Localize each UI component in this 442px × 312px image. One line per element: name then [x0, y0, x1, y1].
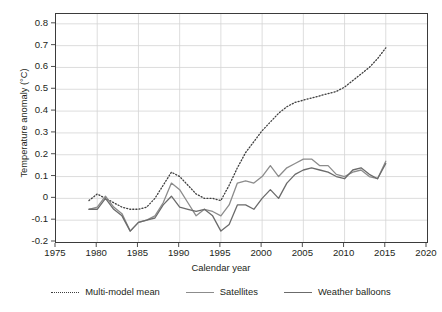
- chart-figure: Temperature anomaly (°C) 0.80.70.60.50.4…: [0, 0, 442, 312]
- legend-swatch-multi_model_mean: [51, 292, 79, 293]
- x-tick-label: 2015: [362, 248, 408, 258]
- legend-label: Weather balloons: [318, 286, 391, 297]
- x-tick-label: 1985: [114, 248, 160, 258]
- x-tick-label: 2010: [321, 248, 367, 258]
- y-tick-label: 0.6: [0, 61, 48, 71]
- legend-label: Multi-model mean: [85, 286, 160, 297]
- x-tick-label: 1990: [156, 248, 202, 258]
- y-tick-label: 0.4: [0, 105, 48, 115]
- x-tick-label: 1975: [32, 248, 78, 258]
- chart-canvas: [56, 14, 427, 242]
- legend-item: Multi-model mean: [51, 286, 160, 297]
- x-tick-label: 2005: [279, 248, 325, 258]
- y-tick-label: -0.1: [0, 214, 48, 224]
- x-tick-label: 2020: [403, 248, 442, 258]
- legend-label: Satellites: [220, 286, 258, 297]
- y-tick-label: 0.2: [0, 149, 48, 159]
- y-tick-label: 0.5: [0, 83, 48, 93]
- y-tick-label: -0.2: [0, 236, 48, 246]
- series-line-weather_balloons: [89, 163, 386, 231]
- y-tick-label: 0.7: [0, 40, 48, 50]
- y-tick-label: 0.8: [0, 18, 48, 28]
- legend-swatch-weather_balloons: [284, 292, 312, 293]
- plot-area: [55, 13, 428, 243]
- y-tick-label: 0.1: [0, 171, 48, 181]
- y-tick-label: 0.3: [0, 127, 48, 137]
- x-tick-label: 1980: [73, 248, 119, 258]
- legend-swatch-satellites: [186, 292, 214, 293]
- x-axis-title: Calendar year: [0, 262, 442, 273]
- legend-item: Weather balloons: [284, 286, 391, 297]
- x-tick-label: 2000: [238, 248, 284, 258]
- chart-legend: Multi-model meanSatellitesWeather balloo…: [0, 286, 442, 297]
- x-tick-label: 1995: [197, 248, 243, 258]
- legend-item: Satellites: [186, 286, 258, 297]
- y-tick-label: 0: [0, 192, 48, 202]
- series-line-multi_model_mean: [89, 48, 386, 209]
